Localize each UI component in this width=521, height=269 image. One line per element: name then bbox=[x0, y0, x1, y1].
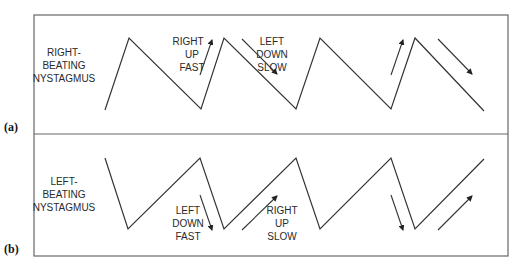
nystagmus-diagram: (a) RIGHT- BEATING NYSTAGMUS RIGHT UP FA… bbox=[0, 0, 521, 269]
panel-b-title-line-1: LEFT- bbox=[50, 176, 77, 187]
panel-b-title-line-2: BEATING bbox=[42, 189, 85, 200]
annotation-left-line-1: LEFT bbox=[176, 205, 200, 216]
panel-b-title-line-3: NYSTAGMUS bbox=[33, 202, 96, 213]
arrow-up-right-icon bbox=[391, 40, 403, 75]
panel-a: (a) RIGHT- BEATING NYSTAGMUS RIGHT UP FA… bbox=[4, 36, 484, 134]
annotation-slow-line-3: SLOW bbox=[257, 62, 287, 73]
panel-b: (b) LEFT- BEATING NYSTAGMUS LEFT DOWN FA… bbox=[4, 158, 484, 256]
right-beating-waveform bbox=[105, 38, 484, 111]
annotation-up-line-2: UP bbox=[185, 49, 199, 60]
arrow-down-right-icon bbox=[391, 195, 403, 230]
annotation-slow-line-3: SLOW bbox=[267, 231, 297, 242]
annotation-up-line-2: UP bbox=[275, 218, 289, 229]
annotation-right-line-1: RIGHT bbox=[266, 205, 297, 216]
panel-a-title-line-1: RIGHT- bbox=[47, 47, 81, 58]
annotation-fast-line-3: FAST bbox=[175, 231, 200, 242]
panel-a-tag: (a) bbox=[4, 120, 18, 134]
arrow-down-right-icon bbox=[438, 39, 472, 74]
panel-a-title-line-3: NYSTAGMUS bbox=[33, 73, 96, 84]
annotation-down-line-2: DOWN bbox=[172, 218, 204, 229]
panel-a-title-line-2: BEATING bbox=[42, 60, 85, 71]
annotation-right-line-1: RIGHT bbox=[172, 36, 203, 47]
left-beating-waveform bbox=[105, 158, 484, 229]
panel-b-tag: (b) bbox=[4, 242, 19, 256]
annotation-left-line-1: LEFT bbox=[260, 36, 284, 47]
